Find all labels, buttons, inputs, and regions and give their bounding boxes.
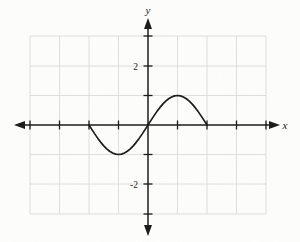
y-tick-label-2: 2 [133, 62, 138, 72]
x-axis-arrow-right-icon [269, 121, 280, 129]
x-axis-label: x [282, 119, 288, 131]
y-tick-label-minus-2: -2 [130, 180, 138, 190]
y-axis-label: y [145, 4, 151, 16]
y-axis: y 2 -2 [130, 4, 152, 236]
x-axis-arrow-left-icon [14, 121, 25, 129]
y-axis-arrow-up-icon [144, 18, 152, 29]
graph-figure: x y 2 -2 [0, 0, 300, 242]
y-axis-arrow-down-icon [144, 225, 152, 236]
coordinate-plane: x y 2 -2 [0, 0, 300, 242]
